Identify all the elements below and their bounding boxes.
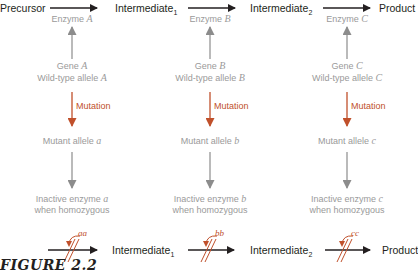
inactive-enzyme-b: Inactive enzyme b when homozygous [150,193,270,216]
enzyme-label-a: Enzyme A [22,13,122,25]
inactive-enzyme-a: Inactive enzyme a when homozygous [12,193,132,216]
gene-label-c: Gene C Wild-type allele C [287,60,407,84]
genotype-label-c: cc [351,228,359,238]
blocked-arrow-b [188,236,234,262]
gene-label-b: Gene B Wild-type allele B [150,60,270,84]
mutant-allele-c: Mutant allele c [287,135,407,147]
blocked-node-product: Product [382,244,418,256]
enzyme-label-c: Enzyme C [297,13,397,25]
genotype-label-a: aa [78,228,87,238]
gene-label-a: Gene A Wild-type allele A [12,60,132,84]
genotype-label-b: bb [215,228,224,238]
blocked-node-intermediate-2: Intermediate2 [250,244,312,258]
mutation-label-b: Mutation [214,101,249,111]
blocked-node-intermediate-1: Intermediate1 [112,244,174,258]
figure-caption: FIGURE 2.2 [0,257,97,273]
mutation-label-a: Mutation [76,101,111,111]
inactive-enzyme-c: Inactive enzyme c when homozygous [287,193,407,216]
mutant-allele-a: Mutant allele a [12,135,132,147]
enzyme-label-b: Enzyme B [160,13,260,25]
blocked-arrow-c [325,236,370,262]
mutation-label-c: Mutation [351,101,386,111]
mutant-allele-b: Mutant allele b [150,135,270,147]
